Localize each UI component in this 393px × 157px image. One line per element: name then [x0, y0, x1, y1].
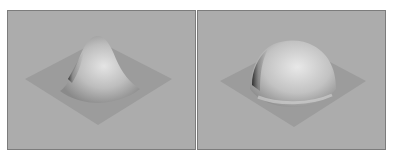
surface-panel-dome — [197, 10, 386, 150]
dome-surface-render — [198, 11, 386, 150]
surface-panel-peak — [7, 10, 196, 150]
peak-surface-render — [8, 11, 196, 150]
